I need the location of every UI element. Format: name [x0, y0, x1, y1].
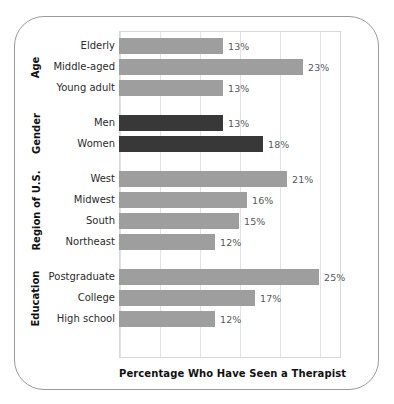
- bar-value-label: 12%: [220, 237, 241, 248]
- bar: [119, 59, 303, 75]
- bar: [119, 269, 319, 285]
- bar: [119, 38, 223, 54]
- bar-row: 13%: [119, 80, 249, 96]
- bar-row: 21%: [119, 171, 313, 187]
- group-label-text: Education: [31, 270, 42, 326]
- bar: [119, 213, 239, 229]
- bar-row: 12%: [119, 234, 241, 250]
- gridline-20: [280, 32, 281, 357]
- bar: [119, 115, 223, 131]
- bar: [119, 136, 263, 152]
- bar-value-label: 18%: [268, 139, 289, 150]
- bar-row: 17%: [119, 290, 281, 306]
- group-label-text: Age: [31, 56, 42, 78]
- bar-row: 18%: [119, 136, 289, 152]
- bar-row: 12%: [119, 311, 241, 327]
- gridline-25: [320, 32, 321, 357]
- bar: [119, 192, 247, 208]
- bar-value-label: 25%: [324, 272, 345, 283]
- bar: [119, 234, 215, 250]
- chart-figure: Elderly13%Middle-aged23%Young adult13%Ag…: [0, 0, 394, 404]
- bar-row: 15%: [119, 213, 265, 229]
- group-label-text: Gender: [31, 113, 42, 154]
- group-label: Gender: [28, 115, 44, 152]
- bar-value-label: 12%: [220, 314, 241, 325]
- bar-row: 13%: [119, 38, 249, 54]
- group-label: Age: [28, 38, 44, 96]
- bar: [119, 311, 215, 327]
- bar-value-label: 13%: [228, 83, 249, 94]
- group-label: Education: [28, 269, 44, 327]
- bar-value-label: 15%: [244, 216, 265, 227]
- group-label: Region of U.S.: [28, 171, 44, 250]
- bar-row: 25%: [119, 269, 345, 285]
- bar-value-label: 23%: [308, 62, 329, 73]
- bar: [119, 80, 223, 96]
- bar: [119, 171, 287, 187]
- bar-row: 13%: [119, 115, 249, 131]
- bar-row: 23%: [119, 59, 329, 75]
- bar-value-label: 13%: [228, 41, 249, 52]
- x-axis-title: Percentage Who Have Seen a Therapist: [119, 368, 341, 379]
- group-label-text: Region of U.S.: [31, 170, 42, 250]
- bar-value-label: 17%: [260, 293, 281, 304]
- bar-value-label: 13%: [228, 118, 249, 129]
- bar-row: 16%: [119, 192, 273, 208]
- bar-value-label: 16%: [252, 195, 273, 206]
- bar: [119, 290, 255, 306]
- bar-value-label: 21%: [292, 174, 313, 185]
